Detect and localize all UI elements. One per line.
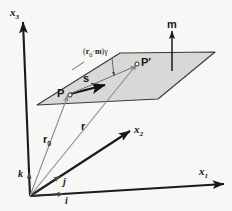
distance-annotation-label: (r0·m)γ — [83, 48, 108, 58]
x2-axis-label: x2 — [134, 124, 143, 138]
basis-vector-j — [30, 176, 60, 196]
vector-label-s: s — [83, 73, 89, 84]
point-label-P-prime: P′ — [141, 57, 151, 68]
x3-axis-line — [23, 22, 30, 196]
vector-label-r0: r0 — [43, 134, 51, 147]
basis-vector-i-label: i — [65, 196, 68, 206]
x3-axis-label: x3 — [10, 7, 19, 21]
diagram-canvas — [0, 0, 232, 211]
point-marker-P-prime — [135, 62, 139, 66]
vector-label-r: r — [81, 121, 85, 132]
basis-vector-j-label: j — [63, 177, 66, 187]
point-label-P: P — [57, 88, 64, 99]
point-marker-P — [68, 93, 72, 97]
annotation-tick-line — [72, 62, 84, 70]
basis-vector-k-label: k — [18, 169, 23, 179]
x1-axis-label: x1 — [199, 166, 208, 180]
vector-label-m: m — [167, 19, 177, 30]
vector-diagram-figure: x3 x2 x1 k j i P P′ s r0 r m (r0·m)γ — [0, 0, 232, 211]
